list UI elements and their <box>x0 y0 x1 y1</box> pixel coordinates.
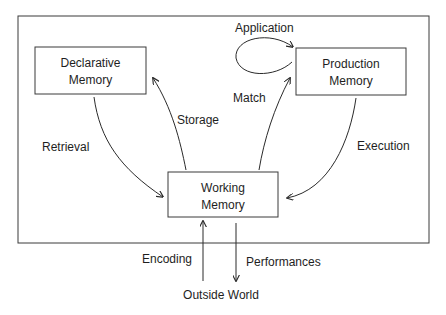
encoding-label: Encoding <box>142 252 192 266</box>
outside-world-label: Outside World <box>183 288 259 302</box>
declarative-memory-node: Declarative Memory <box>35 47 146 94</box>
storage-label: Storage <box>177 113 219 127</box>
execution-arrow <box>287 98 356 198</box>
application-loop-arrow <box>236 38 293 74</box>
working-memory-node: Working Memory <box>168 172 278 217</box>
working-memory-label-line2: Memory <box>201 198 244 212</box>
declarative-memory-label-line2: Memory <box>69 73 112 87</box>
production-memory-label-line1: Production <box>322 57 379 71</box>
memory-architecture-diagram: Declarative Memory Production Memory Wor… <box>0 0 446 315</box>
declarative-memory-label-line1: Declarative <box>60 56 120 70</box>
retrieval-arrow <box>94 97 163 197</box>
application-label: Application <box>235 21 294 35</box>
retrieval-label: Retrieval <box>42 140 89 154</box>
performances-label: Performances <box>246 255 321 269</box>
production-memory-label-line2: Memory <box>329 74 372 88</box>
production-memory-node: Production Memory <box>296 48 406 95</box>
match-label: Match <box>233 91 266 105</box>
working-memory-label-line1: Working <box>201 181 245 195</box>
execution-label: Execution <box>357 139 410 153</box>
